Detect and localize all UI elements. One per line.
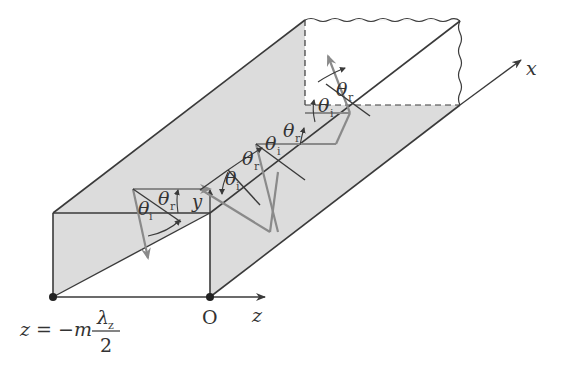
waveguide-diagram: θ i θ r θ i θ r θ i θ r θ i θ r y x z O … [0, 0, 562, 370]
svg-text:z = −m: z = −m [19, 318, 92, 340]
svg-text:θ: θ [158, 187, 170, 209]
svg-text:θ: θ [283, 119, 295, 141]
svg-text:θ: θ [336, 78, 348, 100]
svg-text:θ: θ [318, 94, 330, 116]
svg-text:i: i [149, 210, 153, 223]
boundary-label: z = −m λ z 2 [19, 306, 120, 356]
diagram-canvas: θ i θ r θ i θ r θ i θ r θ i θ r y x z O … [0, 0, 562, 370]
x-axis-label: x [526, 57, 537, 79]
svg-text:i: i [277, 145, 281, 158]
boundary-point [49, 293, 57, 301]
svg-text:r: r [348, 91, 354, 104]
svg-text:θ: θ [265, 132, 277, 154]
svg-text:i: i [236, 180, 240, 193]
svg-text:r: r [254, 160, 260, 173]
origin-label: O [202, 306, 218, 328]
y-axis-label: y [191, 191, 203, 212]
origin-point [206, 293, 214, 301]
svg-text:2: 2 [100, 334, 112, 356]
back-face [305, 20, 460, 105]
svg-text:θ: θ [242, 147, 254, 169]
svg-text:z: z [108, 319, 114, 332]
svg-text:i: i [330, 107, 334, 120]
svg-text:r: r [295, 132, 301, 145]
x-axis [460, 60, 521, 105]
svg-text:r: r [170, 200, 176, 213]
z-axis-label: z [251, 304, 263, 326]
